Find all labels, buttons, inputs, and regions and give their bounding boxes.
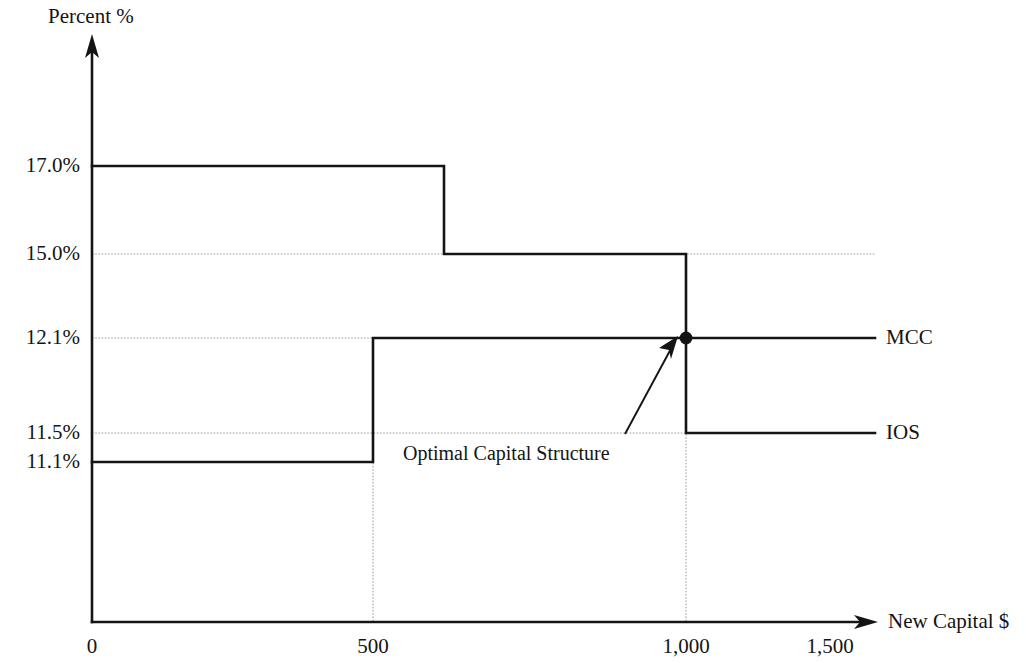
- gridlines: [92, 254, 875, 622]
- y-axis-title: Percent %: [48, 6, 134, 27]
- ios-step-line: [92, 166, 875, 433]
- optimal-point-marker: [680, 332, 693, 345]
- chart-canvas: [0, 0, 1026, 663]
- y-tick-label-17: 17.0%: [0, 155, 80, 176]
- mcc-ios-chart: Percent % New Capital $ 17.0% 15.0% 12.1…: [0, 0, 1026, 663]
- x-tick-label-500: 500: [333, 636, 413, 657]
- annotation-arrow: [625, 345, 673, 434]
- y-tick-label-15: 15.0%: [0, 243, 80, 264]
- annotation-label-optimal-capital-structure: Optimal Capital Structure: [403, 443, 610, 463]
- annotation-arrowhead: [659, 336, 678, 359]
- x-tick-label-1500: 1,500: [780, 636, 880, 657]
- series-label-mcc: MCC: [886, 327, 933, 348]
- y-tick-label-121: 12.1%: [0, 327, 80, 348]
- y-tick-label-111: 11.1%: [0, 451, 80, 472]
- x-tick-label-1000: 1,000: [636, 636, 736, 657]
- series-label-ios: IOS: [886, 422, 920, 443]
- axes: [92, 46, 866, 622]
- x-tick-label-0: 0: [62, 636, 122, 657]
- y-tick-label-115: 11.5%: [0, 422, 80, 443]
- annotation-arrow-shaft: [625, 345, 673, 434]
- x-axis-title: New Capital $: [888, 611, 1009, 632]
